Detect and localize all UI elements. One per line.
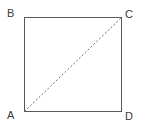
- vertex-label-d: D: [125, 111, 133, 122]
- vertex-label-c: C: [125, 9, 133, 20]
- figure-canvas: [0, 0, 145, 131]
- geometry-figure: B C A D: [0, 0, 145, 131]
- vertex-label-b: B: [7, 8, 14, 19]
- diagonal-ac: [25, 18, 122, 112]
- vertex-label-a: A: [7, 110, 14, 121]
